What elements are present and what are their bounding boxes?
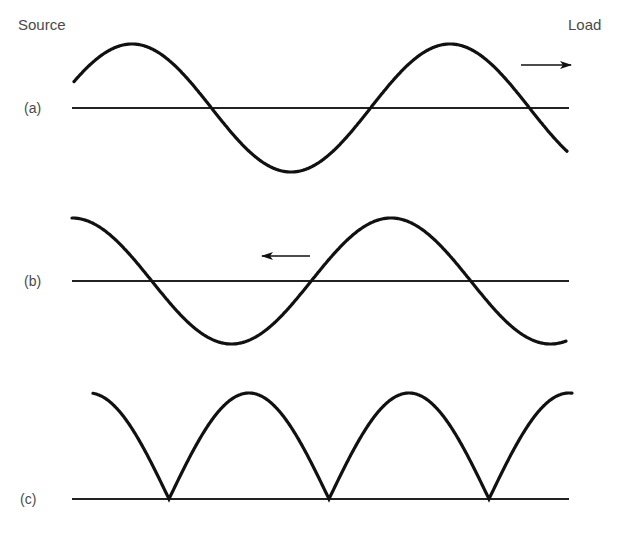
panel-label-b: (b) (24, 274, 41, 288)
standing-wave-diagram (0, 0, 637, 537)
panel-c (72, 393, 572, 499)
panel-label-c: (c) (20, 492, 36, 506)
standing-wave-envelope-curve (93, 393, 572, 499)
panel-label-a: (a) (24, 101, 41, 115)
load-label: Load (568, 17, 601, 32)
panel-b (72, 218, 569, 344)
source-label: Source (18, 17, 66, 32)
panel-a (72, 44, 571, 172)
